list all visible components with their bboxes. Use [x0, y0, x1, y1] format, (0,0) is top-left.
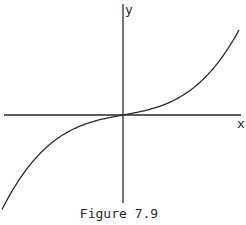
- y-axis-label: y: [125, 2, 133, 17]
- figure-canvas: y x Figure 7.9: [0, 0, 246, 225]
- function-curve: [2, 30, 239, 210]
- figure-caption: Figure 7.9: [80, 206, 158, 221]
- x-axis-label: x: [237, 116, 245, 131]
